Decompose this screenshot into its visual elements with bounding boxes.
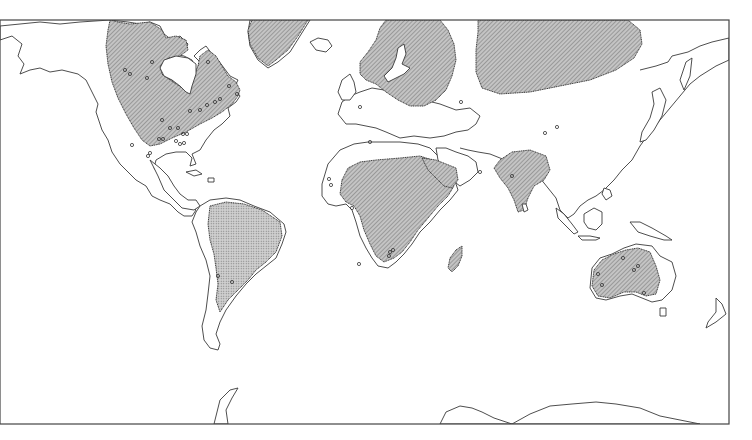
java-coast	[578, 236, 600, 240]
sri-lanka-coast	[522, 204, 528, 212]
borneo-coast	[584, 208, 602, 230]
south-american-shield	[208, 202, 282, 312]
tasmania-coast	[660, 308, 666, 316]
new-zealand-coast	[706, 298, 726, 328]
cuba-coast	[186, 170, 202, 176]
new-guinea-coast	[630, 222, 672, 240]
site-marker	[478, 170, 481, 173]
britain-coast	[338, 74, 356, 100]
hispaniola-coast	[208, 178, 214, 182]
world-shield-map	[0, 0, 752, 440]
australian-shield	[592, 248, 660, 298]
indian-shield	[494, 150, 550, 212]
iceland-coast	[310, 38, 332, 52]
madagascar-shield	[448, 246, 462, 272]
philippines-coast	[602, 188, 612, 200]
site-marker	[459, 100, 462, 103]
antarctic-peninsula-coast	[214, 388, 238, 424]
antarctica-coast	[440, 402, 700, 424]
site-marker	[357, 262, 360, 265]
